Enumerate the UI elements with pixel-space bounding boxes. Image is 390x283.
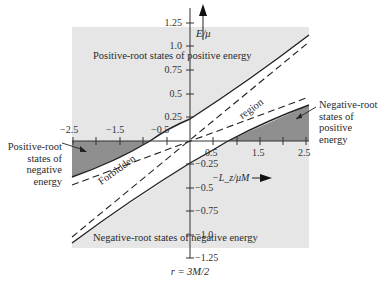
label-positive-root-negative-energy: Positive-root states of negative energy bbox=[0, 141, 62, 187]
y-arrow-head-icon bbox=[199, 4, 207, 16]
label-negative-root-negative-energy: Negative-root states of negative energy bbox=[93, 232, 258, 244]
y-axis-label: E/μ bbox=[196, 28, 211, 40]
figure-caption: r = 3M/2 bbox=[140, 266, 240, 278]
x-tick-label: −1.5 bbox=[106, 124, 124, 135]
x-tick-label: −0.5 bbox=[151, 124, 169, 135]
y-tick-label: 1.25 bbox=[148, 17, 182, 28]
x-tick-label: 0.5 bbox=[205, 147, 218, 158]
x-tick-label: −2.5 bbox=[60, 124, 78, 135]
label-positive-root-positive-energy: Positive-root states of positive energy bbox=[93, 50, 251, 62]
x-tick-label: 1.5 bbox=[252, 147, 265, 158]
label-negative-root-positive-energy: Negative-root states of positive energy bbox=[319, 99, 377, 145]
y-tick-label: 0.25 bbox=[148, 111, 182, 122]
y-tick-label: 0.5 bbox=[148, 88, 182, 99]
y-tick-label: −0.25 bbox=[195, 158, 218, 169]
y-tick-label: −0.75 bbox=[195, 205, 218, 216]
x-axis-label: −L_z/μM bbox=[212, 172, 249, 184]
y-tick-label: 0.75 bbox=[148, 64, 182, 75]
x-tick-label: 2.5 bbox=[298, 147, 311, 158]
y-tick-label: −1.25 bbox=[195, 252, 218, 263]
y-tick-label: −0.5 bbox=[195, 182, 213, 193]
